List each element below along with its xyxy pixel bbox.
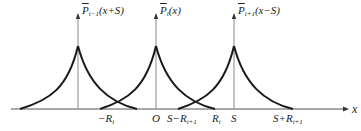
- diagram-canvas: Pi−1(x+S) Pi(x) Pi+1(x−S) −Ri O S−Ri+1 R…: [0, 0, 361, 131]
- tick-s: S: [231, 113, 237, 124]
- label-p-next: Pi+1(x−S): [238, 5, 280, 18]
- x-axis-arrow-icon: [343, 107, 349, 112]
- tick-origin: O: [152, 113, 160, 124]
- label-p-cur: Pi(x): [160, 5, 181, 18]
- tick-neg-ri: −Ri: [98, 113, 114, 126]
- tick-s-plus-r: S+Ri+1: [273, 113, 303, 126]
- tick-s-minus-r: S−Ri+1: [167, 113, 197, 126]
- guide-cur: [154, 13, 158, 109]
- guide-next: [232, 13, 236, 109]
- x-axis-label: x: [352, 103, 357, 115]
- curve-cur: [100, 46, 215, 109]
- label-p-prev: Pi−1(x+S): [82, 5, 124, 18]
- guide-prev: [76, 13, 80, 109]
- curve-next: [178, 46, 293, 109]
- tick-ri: Ri: [212, 113, 221, 126]
